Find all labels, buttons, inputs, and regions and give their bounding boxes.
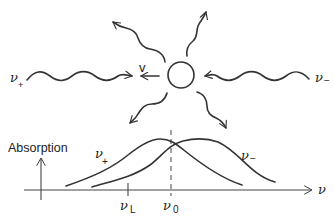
frequency-axis-label: ν — [318, 182, 326, 197]
scattered-photon-lower-left — [130, 93, 167, 123]
scattered-photon-lower-right — [197, 92, 226, 128]
right-beam-subscript: − — [324, 75, 330, 86]
nu-plus-curve-subscript: + — [102, 156, 108, 167]
absorption-axis-label: Absorption — [8, 141, 68, 155]
left-beam-wave — [27, 72, 132, 81]
doppler-diagram: v ν + ν − ν Absorption ν L ν 0 ν + ν − — [0, 0, 334, 219]
right-beam-label: ν — [315, 70, 323, 85]
scattered-photon-upper-right — [187, 12, 206, 56]
nu-l-subscript: L — [130, 204, 136, 215]
nu-0-subscript: 0 — [173, 204, 179, 215]
nu-minus-curve-subscript: − — [250, 153, 256, 164]
atom-circle — [168, 62, 194, 88]
scattered-photon-upper-left — [113, 22, 165, 62]
nu-minus-curve-label: ν — [241, 148, 249, 163]
nu-0-label: ν — [163, 198, 171, 213]
nu-l-label: ν — [120, 198, 128, 213]
right-beam-wave — [205, 72, 309, 81]
velocity-label: v — [139, 60, 146, 75]
left-beam-label: ν — [10, 70, 18, 85]
left-beam-subscript: + — [18, 80, 23, 90]
